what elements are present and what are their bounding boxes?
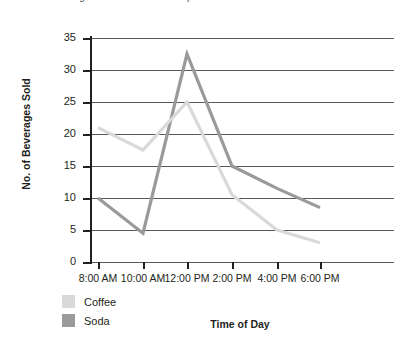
coffee-line (98, 102, 320, 243)
x-axis-title: Time of Day (150, 318, 330, 330)
legend-item-soda[interactable]: Soda (62, 311, 116, 330)
x-tick (187, 262, 189, 269)
legend-swatch-icon (62, 314, 75, 327)
x-tick (232, 262, 234, 269)
chart-legend: CoffeeSoda (62, 292, 116, 330)
x-tick-label: 2:00 PM (212, 272, 251, 284)
x-tick (143, 262, 145, 269)
x-tick-label: 12:00 PM (165, 272, 210, 284)
x-tick-label: 10:00 AM (121, 272, 165, 284)
legend-label: Soda (84, 315, 110, 327)
beverage-sales-line-chart: beverages sold at a coffee shop No. of B… (0, 0, 408, 348)
x-tick-label: 4:00 PM (257, 272, 296, 284)
x-tick-label: 6:00 PM (300, 272, 339, 284)
x-tick-label: 8:00 AM (79, 272, 118, 284)
legend-label: Coffee (84, 296, 116, 308)
x-tick (277, 262, 279, 269)
x-tick (98, 262, 100, 269)
legend-swatch-icon (62, 295, 75, 308)
x-tick (320, 262, 322, 269)
legend-item-coffee[interactable]: Coffee (62, 292, 116, 311)
